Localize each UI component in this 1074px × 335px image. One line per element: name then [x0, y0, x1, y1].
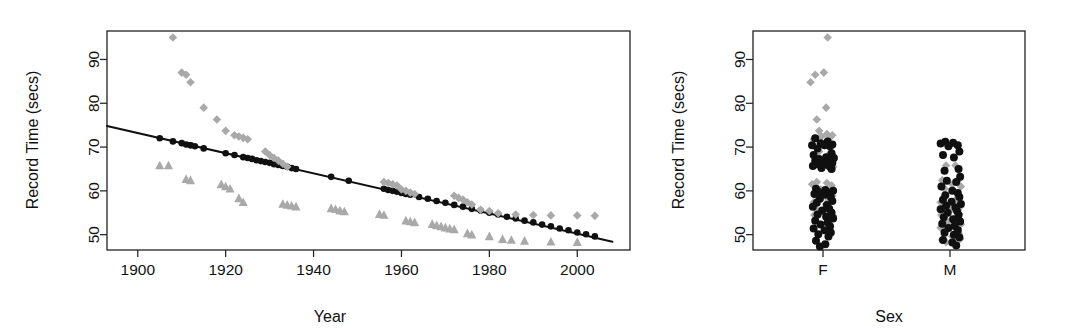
- data-point-circle: [231, 152, 238, 159]
- data-point-circle: [955, 233, 963, 241]
- data-point-circle: [539, 221, 546, 228]
- data-point-circle: [592, 233, 599, 240]
- data-point-circle: [952, 178, 960, 186]
- data-point-diamond: [573, 211, 582, 220]
- y-tick-label: 50: [86, 226, 103, 244]
- data-point-circle: [583, 231, 590, 238]
- data-point-diamond: [169, 33, 178, 42]
- data-point-circle: [556, 225, 563, 232]
- data-point-circle: [937, 182, 945, 190]
- left-panel-ylabel: Record Time (secs): [24, 71, 41, 210]
- data-point-diamond: [213, 115, 222, 124]
- data-point-triangle: [485, 232, 494, 241]
- data-point-diamond: [819, 68, 828, 77]
- x-tick-label: 1940: [296, 261, 331, 278]
- data-point-circle: [941, 228, 949, 236]
- right-panel-x-axis: FM: [818, 250, 956, 278]
- data-point-circle: [293, 166, 300, 173]
- figure-canvas: 5060708090 190019201940196019802000 Year…: [0, 0, 1074, 335]
- data-point-circle: [433, 198, 440, 205]
- data-point-circle: [817, 164, 825, 172]
- data-point-circle: [192, 143, 199, 150]
- data-point-triangle: [573, 237, 582, 246]
- right-panel-y-axis: 5060708090: [732, 50, 754, 243]
- y-tick-label: 80: [732, 94, 749, 112]
- data-point-circle: [548, 223, 555, 230]
- data-point-circle: [170, 138, 177, 145]
- data-point-circle: [565, 227, 572, 234]
- right-panel-xlabel: Sex: [875, 308, 903, 325]
- data-point-circle: [955, 165, 963, 173]
- data-point-circle: [939, 236, 947, 244]
- right-panel-data: [806, 33, 965, 250]
- data-point-circle: [826, 142, 834, 150]
- data-point-diamond: [199, 103, 208, 112]
- data-point-triangle: [164, 161, 173, 170]
- data-point-circle: [828, 165, 836, 173]
- data-point-circle: [504, 213, 511, 220]
- data-point-circle: [941, 167, 949, 175]
- data-point-circle: [442, 199, 449, 206]
- data-point-diamond: [547, 211, 556, 220]
- data-point-circle: [944, 142, 952, 150]
- data-point-circle: [809, 162, 817, 170]
- data-point-circle: [952, 242, 960, 250]
- left-panel-data: [107, 33, 612, 246]
- data-point-circle: [328, 174, 335, 181]
- data-point-triangle: [507, 235, 516, 244]
- data-point-diamond: [529, 211, 538, 220]
- x-tick-label: 1960: [384, 261, 419, 278]
- data-point-circle: [937, 205, 945, 213]
- x-tick-label: 1920: [208, 261, 243, 278]
- data-point-circle: [809, 203, 817, 211]
- data-point-triangle: [498, 234, 507, 243]
- data-point-diamond: [822, 103, 831, 112]
- x-tick-label: 1980: [472, 261, 507, 278]
- plots-svg: 5060708090 190019201940196019802000 Year…: [0, 0, 1074, 335]
- x-tick-label: 1900: [121, 261, 156, 278]
- data-point-circle: [937, 140, 945, 148]
- data-point-circle: [425, 195, 432, 202]
- left-panel-xlabel: Year: [314, 308, 347, 325]
- left-panel: 5060708090 190019201940196019802000 Year…: [24, 31, 630, 325]
- x-tick-label: M: [944, 261, 957, 278]
- data-point-circle: [574, 229, 581, 236]
- data-point-diamond: [186, 78, 195, 87]
- data-point-circle: [955, 193, 963, 201]
- data-point-diamond: [221, 127, 230, 136]
- y-tick-label: 90: [732, 50, 749, 68]
- data-point-diamond: [823, 33, 832, 42]
- data-point-diamond: [806, 78, 815, 87]
- x-tick-label: F: [818, 261, 827, 278]
- right-panel: 5060708090 FM Sex Record Time (secs): [670, 31, 1025, 325]
- data-point-triangle: [546, 237, 555, 246]
- right-panel-plot-box: [753, 31, 1025, 250]
- y-tick-label: 60: [86, 182, 103, 200]
- y-tick-label: 60: [732, 182, 749, 200]
- data-point-diamond: [591, 212, 600, 221]
- y-tick-label: 70: [732, 138, 749, 156]
- data-point-triangle: [155, 161, 164, 170]
- data-point-circle: [816, 242, 824, 250]
- data-point-circle: [521, 217, 528, 224]
- data-point-circle: [824, 232, 832, 240]
- data-point-circle: [955, 147, 963, 155]
- data-point-circle: [530, 219, 537, 226]
- data-point-diamond: [811, 71, 820, 80]
- data-point-triangle: [520, 236, 529, 245]
- data-point-circle: [156, 135, 163, 142]
- right-panel-ylabel: Record Time (secs): [670, 71, 687, 210]
- data-point-circle: [345, 177, 352, 184]
- data-point-diamond: [812, 115, 821, 124]
- data-point-circle: [939, 151, 947, 159]
- y-tick-label: 50: [732, 226, 749, 244]
- left-panel-y-axis: 5060708090: [86, 50, 108, 243]
- data-point-circle: [451, 202, 458, 209]
- y-tick-label: 80: [86, 94, 103, 112]
- x-tick-label: 2000: [560, 261, 595, 278]
- y-tick-label: 90: [86, 50, 103, 68]
- data-point-circle: [200, 145, 207, 152]
- data-point-circle: [950, 154, 958, 162]
- y-tick-label: 70: [86, 138, 103, 156]
- data-point-circle: [222, 150, 229, 157]
